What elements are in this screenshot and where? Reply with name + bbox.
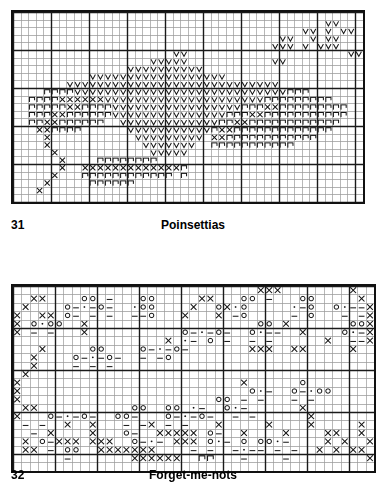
- chart-title: Poinsettias: [0, 218, 386, 232]
- chart-title: Forget-me-nots: [0, 468, 386, 482]
- chart-poinsettias: 31 Poinsettias: [0, 0, 386, 244]
- poinsettias-grid[interactable]: [11, 10, 365, 204]
- poinsettias-caption: 31 Poinsettias: [0, 216, 386, 236]
- forget-me-nots-grid[interactable]: [11, 284, 376, 473]
- forget-me-nots-grid-canvas[interactable]: [13, 286, 374, 471]
- chart-forget-me-nots: 32 Forget-me-nots: [0, 270, 386, 488]
- poinsettias-grid-canvas[interactable]: [13, 12, 363, 202]
- forget-me-nots-caption: 32 Forget-me-nots: [0, 466, 386, 486]
